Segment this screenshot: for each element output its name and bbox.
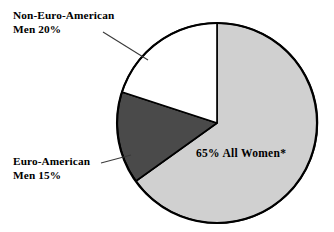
label-euro-american-men-line1: Euro-American: [13, 155, 90, 167]
label-non-euro-american-men: Non-Euro-American Men 20%: [13, 9, 114, 36]
label-euro-american-men: Euro-American Men 15%: [13, 155, 90, 182]
label-euro-american-men-line2: Men 15%: [13, 169, 90, 183]
pie-chart: Non-Euro-American Men 20% Euro-American …: [0, 0, 334, 232]
label-non-euro-american-men-line1: Non-Euro-American: [13, 9, 114, 21]
label-all-women: 65% All Women*: [196, 147, 286, 159]
label-non-euro-american-men-line2: Men 20%: [13, 23, 114, 37]
leader-line-non-euro-american-men: [103, 32, 148, 60]
